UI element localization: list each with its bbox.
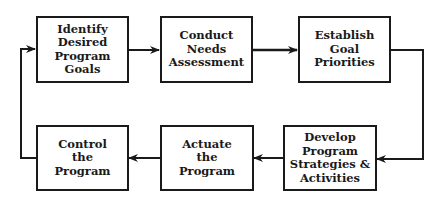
node-conduct-needs-assessment: Conduct Needs Assessment <box>160 16 253 83</box>
arrow-control-to-identify <box>21 49 36 158</box>
node-identify-desired-program-goals: Identify Desired Program Goals <box>36 16 129 83</box>
node-actuate-the-program: Actuate the Program <box>160 125 254 191</box>
node-label: Develop Program Strategies & Activities <box>290 131 370 185</box>
node-label: Control the Program <box>54 138 110 179</box>
node-label: Actuate the Program <box>179 138 235 179</box>
node-control-the-program: Control the Program <box>36 125 129 191</box>
flowchart-canvas: Identify Desired Program Goals Conduct N… <box>0 0 446 204</box>
node-label: Establish Goal Priorities <box>314 29 375 70</box>
node-label: Conduct Needs Assessment <box>169 29 244 70</box>
node-establish-goal-priorities: Establish Goal Priorities <box>298 16 391 83</box>
node-label: Identify Desired Program Goals <box>38 23 127 77</box>
node-develop-program-strategies: Develop Program Strategies & Activities <box>283 125 377 191</box>
